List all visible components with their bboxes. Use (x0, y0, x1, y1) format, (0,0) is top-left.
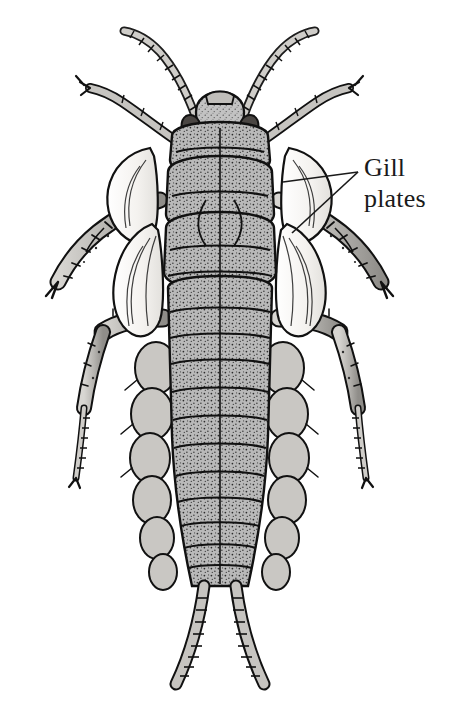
gill-plates-label-line1: Gill (364, 152, 426, 183)
head-top-lobe (206, 92, 234, 105)
antenna-right (241, 31, 315, 118)
cercus-right (232, 586, 264, 684)
foreleg-right (261, 76, 363, 142)
gill-plates-label-line2: plates (364, 183, 426, 214)
antenna-left (124, 31, 198, 118)
gill-plates-annotation: Gill plates (364, 152, 426, 214)
mayfly-nymph-illustration (0, 0, 451, 703)
gill-plate-lower-right (276, 224, 326, 336)
foreleg-left (76, 76, 178, 142)
body (164, 92, 276, 587)
abdominal-gills-left (121, 342, 177, 590)
gill-plate-lower-left (113, 224, 163, 336)
cerci (176, 586, 264, 684)
cercus-left (176, 586, 208, 684)
